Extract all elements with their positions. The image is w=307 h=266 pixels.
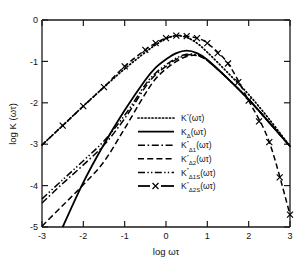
legend-label-KD1S: K″Δ1S(ωτ)	[181, 167, 216, 180]
curve-K1S	[42, 54, 290, 199]
marker-x	[60, 123, 66, 129]
marker-x	[80, 103, 86, 109]
curve-K2	[42, 55, 290, 226]
y-tick-label: 0	[33, 15, 38, 25]
y-tick-label: -3	[30, 139, 38, 149]
y-tick-label: -1	[30, 57, 38, 67]
legend: K″(ωτ)KΔ(ωτ)K″Δ1(ωτ)K″Δ2(ωτ)K″Δ1S(ωτ)K″Δ…	[138, 113, 216, 194]
x-tick-label: 3	[287, 231, 292, 241]
x-tick-label: 0	[163, 231, 168, 241]
x-tick-label: -1	[121, 231, 129, 241]
legend-label-KD1: K″Δ1(ωτ)	[181, 140, 212, 153]
axis-frame	[42, 20, 290, 227]
marker-x	[101, 84, 107, 90]
x-tick-label: 1	[205, 231, 210, 241]
legend-label-KD2: K″Δ2(ωτ)	[181, 154, 212, 167]
curve-K1	[42, 55, 290, 203]
x-tick-label: 2	[246, 231, 251, 241]
marker-x	[142, 47, 148, 53]
y-axis-label: log K (ωτ)	[7, 103, 18, 145]
marker-x	[204, 40, 210, 46]
y-tick-label: -5	[30, 222, 38, 232]
marker-x	[225, 61, 231, 67]
curve-K	[63, 51, 290, 227]
y-tick-label: -4	[30, 181, 38, 191]
x-axis-label: log ωτ	[153, 246, 180, 257]
legend-label-Kpp: K″(ωτ)	[181, 113, 205, 123]
legend-marker-x	[153, 183, 159, 189]
axis-ticks	[42, 20, 290, 227]
axis-tick-labels: -3-2-101230-1-2-3-4-5	[30, 15, 293, 241]
curve-K2S	[42, 36, 290, 215]
x-tick-label: -3	[38, 231, 46, 241]
legend-label-KD: KΔ(ωτ)	[181, 127, 206, 139]
figure-container: -3-2-101230-1-2-3-4-5 log ωτ log K (ωτ) …	[0, 0, 307, 266]
legend-label-KD2S: K″Δ2S(ωτ)	[181, 181, 216, 194]
y-tick-label: -2	[30, 98, 38, 108]
curve-K	[42, 36, 290, 147]
chart-svg: -3-2-101230-1-2-3-4-5 log ωτ log K (ωτ) …	[0, 0, 307, 266]
x-tick-label: -2	[79, 231, 87, 241]
marker-x-glyphs	[60, 33, 293, 218]
